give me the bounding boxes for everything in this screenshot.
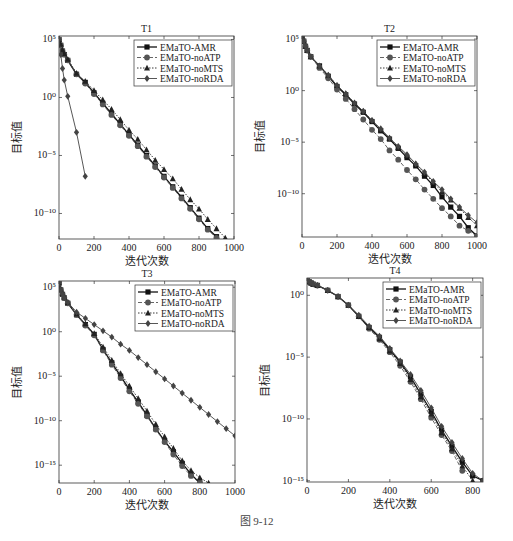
y-tick-label: 10⁰ (285, 85, 299, 96)
legend-item-emato-norda: EMaTO-noRDA (403, 74, 467, 84)
legend-item-emato-noatp: EMaTO-noATP (403, 53, 464, 63)
y-tick-label: 10⁻¹⁰ (282, 413, 304, 424)
chart-title: T3 (141, 268, 152, 279)
x-tick-label: 600 (424, 485, 439, 496)
y-axis-label: 目标值 (258, 364, 271, 397)
figure-caption: 图 9-12 (0, 512, 513, 528)
legend-item-emato-norda: EMaTO-noRDA (409, 316, 473, 326)
x-tick-label: 200 (87, 486, 102, 497)
y-tick-label: 10⁵ (43, 33, 57, 44)
x-tick-label: 200 (330, 240, 345, 251)
x-tick-label: 400 (365, 240, 380, 251)
series-emato-norda (56, 36, 87, 180)
chart-panel-t3: T30200400600800100010⁵10⁰10⁻⁵10⁻¹⁰10⁻¹⁵迭… (10, 268, 245, 511)
x-tick-label: 0 (300, 240, 305, 251)
y-tick-label: 10⁰ (42, 326, 56, 337)
x-tick-label: 1000 (225, 486, 245, 497)
legend-item-emato-nomts: EMaTO-noMTS (160, 64, 223, 74)
legend-item-emato-norda: EMaTO-noRDA (160, 74, 224, 84)
y-tick-label: 10⁻¹⁰ (277, 188, 299, 199)
y-tick-label: 10⁻¹⁰ (34, 207, 56, 218)
x-tick-label: 0 (57, 486, 62, 497)
x-tick-label: 400 (122, 242, 137, 253)
y-axis-label: 目标值 (10, 121, 23, 154)
y-axis-label: 目标值 (253, 120, 266, 153)
y-tick-label: 10⁻¹⁵ (34, 459, 56, 470)
y-tick-label: 10⁰ (42, 91, 56, 102)
y-axis-label: 目标值 (10, 366, 23, 399)
legend-item-emato-norda: EMaTO-noRDA (161, 319, 225, 329)
legend-item-emato-nomts: EMaTO-noMTS (161, 309, 224, 319)
chart-title: T1 (141, 23, 152, 34)
y-tick-label: 10⁻⁵ (37, 149, 56, 160)
legend: EMaTO-AMREMaTO-noATPEMaTO-noMTSEMaTO-noR… (135, 285, 233, 331)
legend-item-emato-noatp: EMaTO-noATP (160, 53, 221, 63)
legend: EMaTO-AMREMaTO-noATPEMaTO-noMTSEMaTO-noR… (134, 40, 232, 86)
x-tick-label: 800 (435, 240, 450, 251)
x-tick-label: 400 (382, 485, 397, 496)
y-tick-label: 10⁵ (43, 281, 57, 292)
y-tick-label: 10⁻⁵ (285, 351, 304, 362)
x-tick-label: 600 (157, 486, 172, 497)
y-tick-label: 10⁻¹⁵ (282, 475, 304, 486)
chart-panel-t2: T20200400600800100010⁵10⁰10⁻⁵10⁻¹⁰迭代次数目标… (253, 23, 487, 265)
chart-title: T4 (389, 265, 400, 276)
x-tick-label: 800 (192, 486, 207, 497)
y-tick-label: 10⁻¹⁰ (34, 415, 56, 426)
legend: EMaTO-AMREMaTO-noATPEMaTO-noMTSEMaTO-noR… (383, 282, 481, 328)
figure-canvas: T10200400600800100010⁵10⁰10⁻⁵10⁻¹⁰迭代次数目标… (0, 0, 513, 541)
x-tick-label: 1000 (467, 240, 487, 251)
y-tick-label: 10⁻⁵ (37, 370, 56, 381)
x-tick-label: 0 (305, 485, 310, 496)
legend-item-emato-nomts: EMaTO-noMTS (403, 64, 466, 74)
y-tick-label: 10⁰ (290, 289, 304, 300)
y-tick-label: 10⁵ (286, 33, 300, 44)
legend: EMaTO-AMREMaTO-noATPEMaTO-noMTSEMaTO-noR… (377, 40, 475, 86)
legend-item-emato-amr: EMaTO-AMR (409, 285, 465, 295)
x-axis-label: 迭代次数 (368, 252, 412, 265)
x-axis-label: 迭代次数 (125, 254, 169, 267)
y-tick-label: 10⁻⁵ (280, 136, 299, 147)
chart-panel-t1: T10200400600800100010⁵10⁰10⁻⁵10⁻¹⁰迭代次数目标… (10, 23, 244, 267)
legend-item-emato-amr: EMaTO-AMR (160, 43, 216, 53)
legend-item-emato-amr: EMaTO-AMR (161, 288, 217, 298)
x-tick-label: 1000 (224, 242, 244, 253)
legend-item-emato-noatp: EMaTO-noATP (161, 298, 222, 308)
legend-item-emato-nomts: EMaTO-noMTS (409, 306, 472, 316)
x-axis-label: 迭代次数 (373, 497, 417, 510)
x-tick-label: 600 (157, 242, 172, 253)
x-tick-label: 200 (87, 242, 102, 253)
legend-item-emato-noatp: EMaTO-noATP (409, 295, 470, 305)
x-tick-label: 400 (122, 486, 137, 497)
x-tick-label: 600 (400, 240, 415, 251)
x-axis-label: 迭代次数 (125, 498, 169, 511)
legend-item-emato-amr: EMaTO-AMR (403, 43, 459, 53)
chart-panel-t4: T4020040060080010⁰10⁻⁵10⁻¹⁰10⁻¹⁵迭代次数目标值E… (258, 265, 486, 510)
x-tick-label: 800 (192, 242, 207, 253)
x-tick-label: 200 (341, 485, 356, 496)
x-tick-label: 0 (57, 242, 62, 253)
chart-title: T2 (384, 23, 395, 34)
x-tick-label: 800 (465, 485, 480, 496)
